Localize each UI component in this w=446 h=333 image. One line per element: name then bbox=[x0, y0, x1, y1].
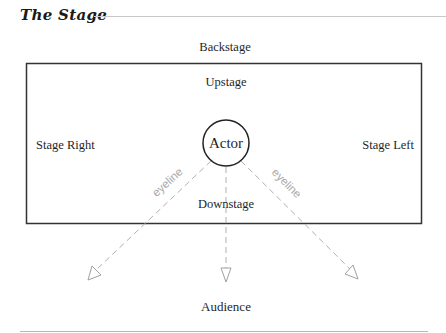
audience-label: Audience bbox=[201, 299, 251, 314]
arrow-down-icon bbox=[221, 268, 231, 282]
stage-diagram: Backstage Upstage Stage Right Stage Left… bbox=[0, 0, 446, 333]
arrowheads bbox=[88, 265, 358, 282]
eyeline-left-label: eyeline bbox=[150, 165, 185, 198]
downstage-label: Downstage bbox=[198, 197, 255, 211]
upstage-label: Upstage bbox=[206, 75, 247, 89]
backstage-label: Backstage bbox=[199, 40, 251, 54]
eyeline-right-line bbox=[241, 161, 351, 270]
stage-left-label: Stage Left bbox=[362, 138, 414, 152]
eyeline-right-label: eyeline bbox=[270, 166, 304, 200]
arrow-right-icon bbox=[345, 265, 358, 279]
eyeline-lines bbox=[95, 161, 351, 271]
eyeline-left-line bbox=[95, 161, 211, 271]
actor-label: Actor bbox=[209, 135, 243, 151]
arrow-left-icon bbox=[88, 266, 101, 280]
bottom-divider bbox=[20, 331, 428, 332]
stage-right-label: Stage Right bbox=[36, 138, 95, 152]
